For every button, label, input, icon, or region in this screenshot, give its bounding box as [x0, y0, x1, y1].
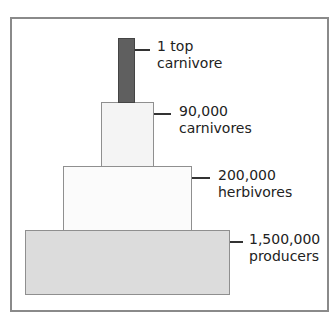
- carnivores-count: 90,000: [179, 103, 252, 120]
- producers-label: 1,500,000 producers: [249, 231, 320, 265]
- producers-tick: [230, 241, 243, 243]
- top-carnivore-level: [118, 38, 135, 103]
- carnivores-tick: [154, 113, 171, 115]
- top-carnivore-label: 1 top carnivore: [157, 38, 222, 72]
- carnivores-label: 90,000 carnivores: [179, 103, 252, 137]
- herbivores-tick: [192, 177, 210, 179]
- herbivores-level: [63, 166, 192, 231]
- herbivores-label: 200,000 herbivores: [218, 167, 292, 201]
- carnivores-level: [101, 102, 154, 167]
- producers-count: 1,500,000: [249, 231, 320, 248]
- carnivores-name: carnivores: [179, 120, 252, 137]
- producers-name: producers: [249, 248, 320, 265]
- herbivores-count: 200,000: [218, 167, 292, 184]
- top-carnivore-name: carnivore: [157, 55, 222, 72]
- producers-level: [25, 230, 230, 295]
- top-carnivore-tick: [135, 49, 150, 51]
- herbivores-name: herbivores: [218, 184, 292, 201]
- top-carnivore-count: 1 top: [157, 38, 222, 55]
